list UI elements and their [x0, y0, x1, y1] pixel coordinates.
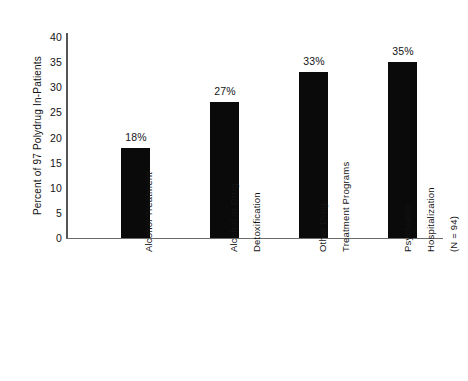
x-category-label-4-line-1: Psychiatric	[402, 132, 414, 252]
bar-chart: Percent of 97 Polydrug In-Patients 40 35…	[0, 0, 468, 381]
x-category-label-2-line-1: Alcohol or Drug	[228, 132, 240, 252]
x-category-label-3-line-1: Other Drug	[317, 132, 329, 252]
x-category-label-1-line-1: Alcohol Treatment	[143, 132, 155, 252]
bar-value-label-3: 33%	[284, 55, 344, 67]
bar-value-label-2: 27%	[195, 85, 255, 97]
x-category-label-3-line-2: Treatment Programs	[340, 132, 352, 252]
x-category-label-4-line-3: (N = 94)	[448, 132, 460, 252]
x-category-label-3: Other Drug Treatment Programs	[305, 132, 363, 252]
x-category-label-2: Alcohol or Drug Detoxification	[216, 132, 274, 252]
x-category-label-2-line-2: Detoxification	[251, 132, 263, 252]
x-category-label-4: Psychiatric Hospitalization (N = 94)	[390, 132, 468, 252]
x-category-label-1: Alcohol Treatment	[131, 132, 166, 252]
x-category-label-4-line-2: Hospitalization	[425, 132, 437, 252]
bar-value-label-4: 35%	[373, 45, 433, 57]
